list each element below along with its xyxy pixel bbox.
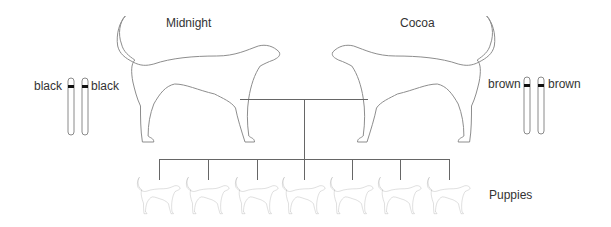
puppy (378, 177, 421, 214)
puppy (282, 177, 325, 214)
allele-label-midnight-1: black (34, 79, 62, 93)
chromosome-pair-midnight (68, 78, 88, 135)
parent-name-cocoa: Cocoa (400, 16, 435, 30)
puppy (235, 177, 278, 214)
offspring-label: Puppies (489, 188, 532, 202)
parent-name-midnight: Midnight (166, 16, 211, 30)
allele-label-cocoa-2: brown (548, 77, 581, 91)
chromosome-pair-cocoa (524, 77, 544, 134)
allele-label-cocoa-1: brown (488, 77, 521, 91)
pedigree-lines (159, 99, 450, 180)
parent-dog-midnight (117, 16, 279, 142)
puppy-row (137, 177, 470, 214)
allele-label-midnight-2: black (91, 79, 119, 93)
puppy (330, 177, 373, 214)
puppy (186, 177, 229, 214)
puppy (427, 177, 470, 214)
puppy (137, 177, 180, 214)
parent-dog-cocoa (332, 16, 494, 142)
